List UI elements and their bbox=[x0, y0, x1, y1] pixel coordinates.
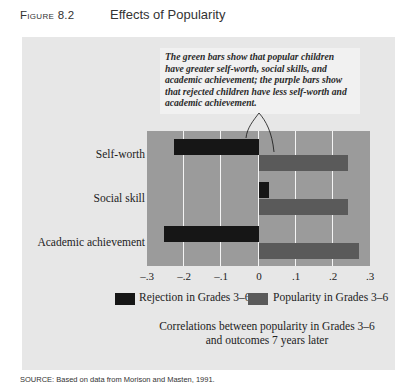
legend-label-rejection: Rejection in Grades 3–6 bbox=[139, 291, 250, 303]
x-tick: .3 bbox=[366, 270, 374, 282]
x-tick: 0 bbox=[256, 270, 262, 282]
category-label-self-worth: Self-worth bbox=[96, 148, 145, 160]
legend-label-popularity: Popularity in Grades 3–6 bbox=[273, 291, 388, 303]
x-tick: .2 bbox=[329, 270, 337, 282]
category-label-academic: Academic achievement bbox=[37, 236, 145, 248]
x-tick: –.3 bbox=[140, 270, 154, 282]
source-note: SOURCE: Based on data from Morison and M… bbox=[20, 375, 215, 384]
category-label-social-skill: Social skill bbox=[94, 192, 145, 204]
x-tick: –.2 bbox=[177, 270, 191, 282]
caption-line-2: and outcomes 7 years later bbox=[147, 333, 387, 347]
caption-line-1: Correlations between popularity in Grade… bbox=[147, 319, 387, 333]
legend-swatch-popularity bbox=[248, 293, 268, 305]
x-axis-caption: Correlations between popularity in Grade… bbox=[147, 319, 387, 347]
legend-swatch-rejection bbox=[115, 293, 135, 305]
x-tick: .1 bbox=[292, 270, 300, 282]
x-tick: –.1 bbox=[214, 270, 228, 282]
